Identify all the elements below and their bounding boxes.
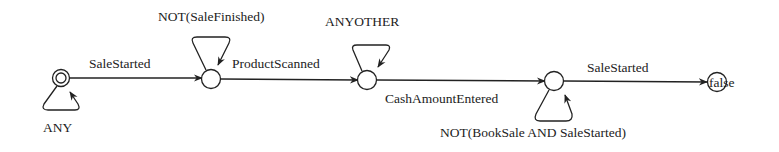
transition-label-any: ANY bbox=[43, 120, 72, 135]
transition-salestarted-2 bbox=[564, 81, 707, 82]
transition-loop-anyother bbox=[353, 45, 390, 71]
transition-label-anyother: ANYOTHER bbox=[325, 14, 399, 29]
state-machine-diagram: ANY SaleStarted NOT(SaleFinished) Produc… bbox=[0, 0, 779, 152]
transition-label-productscanned: ProductScanned bbox=[232, 56, 320, 71]
transition-loop-not-salefinished bbox=[192, 37, 230, 70]
transition-productscanned bbox=[221, 79, 358, 80]
transition-cashamountentered bbox=[377, 80, 545, 81]
transition-label-salestarted-2: SaleStarted bbox=[587, 60, 649, 75]
transition-label-not-salefinished: NOT(SaleFinished) bbox=[158, 9, 264, 24]
transition-loop-not-booksale-and-salestarted bbox=[535, 90, 572, 121]
transition-label-cashamountentered: CashAmountEntered bbox=[385, 91, 498, 106]
state-s2 bbox=[358, 71, 377, 90]
transition-label-not-booksale-and-salestarted: NOT(BookSale AND SaleStarted) bbox=[440, 125, 626, 140]
state-s1 bbox=[202, 70, 221, 89]
state-s0 bbox=[53, 70, 70, 87]
transition-label-salestarted-1: SaleStarted bbox=[89, 56, 151, 71]
transition-loop-any bbox=[43, 86, 79, 110]
state-s3 bbox=[545, 72, 564, 91]
state-label-false: false bbox=[709, 75, 734, 90]
